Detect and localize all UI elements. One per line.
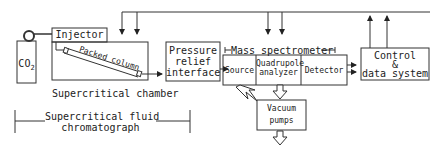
hollow-arrow-source	[236, 85, 257, 101]
co2-label: CO2	[17, 58, 36, 74]
vacuum-pumps-line1: Vacuum	[257, 104, 306, 113]
quadrupole-line2: analyzer	[256, 68, 301, 77]
control-line3: data system	[361, 68, 429, 79]
quadrupole-line1: Quadrupole	[256, 59, 301, 68]
source-label: Source	[223, 66, 256, 75]
sfc-line2: chromatograph	[45, 122, 156, 133]
pressure-relief-line3: interface	[166, 67, 220, 78]
pressure-relief-line2: relief	[166, 56, 220, 67]
hollow-arrow-exhaust	[273, 131, 287, 145]
detector-label: Detector	[301, 66, 347, 75]
supercritical-chamber-label: Supercritical chamber	[52, 88, 162, 99]
pressure-relief-line1: Pressure	[166, 45, 220, 56]
mass-spectrometer-label: Mass spectrometer	[231, 45, 321, 56]
sfc-line1: Supercritical fluid	[45, 111, 156, 122]
hollow-arrow-quadrupole	[273, 85, 287, 99]
injector-label: Injector	[52, 29, 107, 40]
co2-valve-icon	[24, 31, 34, 41]
vacuum-pumps-line2: pumps	[257, 116, 306, 125]
